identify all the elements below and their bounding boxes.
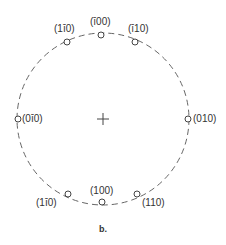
label-left: (0ī0) <box>22 114 43 124</box>
pole-marker-left <box>15 116 21 122</box>
pole-marker-bottom <box>99 199 105 205</box>
label-top: (ī00) <box>90 17 111 27</box>
pole-marker-top-right <box>132 39 138 45</box>
label-top-left: (1ī0) <box>54 24 75 34</box>
label-bottom-left: (1ī0) <box>36 198 57 208</box>
pole-marker-right <box>185 116 191 122</box>
label-right: (010) <box>193 114 216 124</box>
label-bottom: (100) <box>90 186 113 196</box>
label-top-right: (ī10) <box>128 24 149 34</box>
pole-marker-top-left <box>64 39 70 45</box>
label-bottom-right: (110) <box>142 198 165 208</box>
figure-caption: b. <box>99 224 107 234</box>
pole-marker-top <box>98 32 104 38</box>
pole-marker-bottom-left <box>65 191 71 197</box>
pole-marker-bottom-right <box>134 191 140 197</box>
